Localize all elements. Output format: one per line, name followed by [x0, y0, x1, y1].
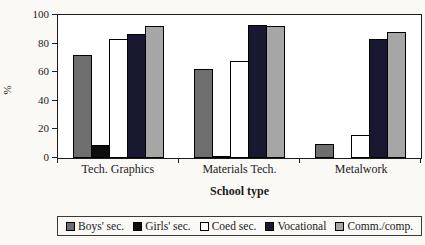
y-tick-label-100: 100	[9, 7, 49, 21]
y-axis: 020406080100	[0, 14, 51, 159]
bar-chart-figure: % 020406080100 Tech. GraphicsMaterials T…	[0, 0, 425, 245]
legend-swatch-girls-sec	[133, 222, 142, 231]
y-tick-mark-80	[52, 43, 57, 44]
bar-boys-sec-tech-graphics	[73, 55, 92, 158]
plot-area	[57, 14, 422, 159]
bar-comm-comp-materials-tech	[266, 26, 285, 158]
y-tick-mark-0	[52, 157, 57, 158]
category-label-materials-tech: Materials Tech.	[179, 162, 301, 177]
legend-item-girls-sec: Girls' sec.	[133, 220, 191, 232]
legend-item-comm-comp: Comm./comp.	[335, 220, 413, 232]
legend-label-vocational: Vocational	[277, 220, 326, 232]
bar-girls-sec-tech-graphics	[91, 145, 110, 158]
bar-group-metalwork	[315, 32, 406, 158]
legend-label-boys-sec: Boys' sec.	[78, 220, 124, 232]
category-label-metalwork: Metalwork	[300, 162, 422, 177]
legend-label-coed-sec: Coed sec.	[212, 220, 257, 232]
legend-swatch-boys-sec	[66, 222, 75, 231]
legend-swatch-coed-sec	[200, 222, 209, 231]
bar-vocational-metalwork	[369, 39, 388, 158]
x-tick-mark-0	[57, 159, 58, 163]
legend-swatch-vocational	[265, 222, 274, 231]
category-label-tech-graphics: Tech. Graphics	[57, 162, 179, 177]
y-tick-label-60: 60	[9, 64, 49, 78]
legend-item-boys-sec: Boys' sec.	[66, 220, 124, 232]
x-tick-mark-3	[420, 159, 421, 163]
bar-vocational-tech-graphics	[127, 34, 146, 158]
y-tick-mark-60	[52, 71, 57, 72]
bar-group-materials-tech	[194, 25, 285, 158]
bar-coed-sec-tech-graphics	[109, 39, 128, 158]
y-tick-label-40: 40	[9, 93, 49, 107]
legend-label-girls-sec: Girls' sec.	[145, 220, 191, 232]
legend: Boys' sec.Girls' sec.Coed sec.Vocational…	[57, 216, 422, 236]
bar-coed-sec-materials-tech	[230, 61, 249, 158]
legend-label-comm-comp: Comm./comp.	[347, 220, 413, 232]
y-tick-label-80: 80	[9, 36, 49, 50]
bar-boys-sec-metalwork	[315, 144, 334, 158]
bar-boys-sec-materials-tech	[194, 69, 213, 158]
bar-comm-comp-metalwork	[387, 32, 406, 158]
bar-coed-sec-metalwork	[351, 135, 370, 158]
x-tick-mark-1	[178, 159, 179, 163]
y-tick-mark-100	[52, 14, 57, 15]
category-labels: Tech. GraphicsMaterials Tech.Metalwork	[57, 162, 422, 177]
legend-swatch-comm-comp	[335, 222, 344, 231]
bar-group-tech-graphics	[73, 26, 164, 158]
bar-girls-sec-materials-tech	[212, 156, 231, 158]
legend-item-coed-sec: Coed sec.	[200, 220, 257, 232]
legend-item-vocational: Vocational	[265, 220, 326, 232]
x-tick-mark-2	[299, 159, 300, 163]
bar-comm-comp-tech-graphics	[145, 26, 164, 158]
y-tick-label-0: 0	[9, 150, 49, 164]
bar-vocational-materials-tech	[248, 25, 267, 158]
y-tick-mark-20	[52, 128, 57, 129]
x-axis-title: School type	[57, 184, 422, 199]
y-tick-mark-40	[52, 100, 57, 101]
y-tick-label-20: 20	[9, 121, 49, 135]
